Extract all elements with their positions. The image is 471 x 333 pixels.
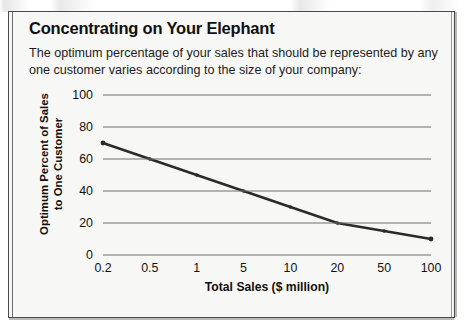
- page-title: Concentrating on Your Elephant: [29, 19, 274, 38]
- figure-panel: Concentrating on Your Elephant The optim…: [8, 11, 455, 318]
- gridline: [103, 223, 431, 224]
- x-axis-title: Total Sales ($ million): [103, 280, 431, 294]
- y-axis-tick-label: 0: [86, 248, 93, 262]
- plot-area: [103, 95, 431, 255]
- line-chart: Optimum Percent of Sales to One Customer…: [23, 95, 443, 311]
- gridline: [103, 159, 431, 160]
- x-axis-tick-label: 0.2: [94, 261, 111, 275]
- y-axis-tick-label: 40: [79, 184, 93, 198]
- gridline: [103, 191, 431, 192]
- x-axis-tick-label: 20: [330, 261, 344, 275]
- x-axis-tick-label: 50: [377, 261, 391, 275]
- data-point-marker: [101, 141, 106, 146]
- data-point-marker: [195, 173, 199, 177]
- x-axis-tick-label: 10: [284, 261, 298, 275]
- series-line: [103, 95, 431, 255]
- data-point-marker: [382, 229, 386, 233]
- x-axis-tick-label: 0.5: [141, 261, 158, 275]
- gridline: [103, 127, 431, 128]
- data-point-marker: [289, 205, 293, 209]
- y-axis-tick-labels: 100806040200: [57, 95, 93, 255]
- data-point-marker: [429, 237, 434, 242]
- y-axis-tick-label: 100: [72, 88, 93, 102]
- gridline: [103, 95, 431, 96]
- x-axis-tick-label: 100: [421, 261, 442, 275]
- y-axis-tick-label: 80: [79, 120, 93, 134]
- x-axis-tick-label: 1: [193, 261, 200, 275]
- y-axis-tick-label: 60: [79, 152, 93, 166]
- x-axis-tick-labels: 0.20.515102050100: [103, 261, 431, 279]
- x-axis-tick-label: 5: [240, 261, 247, 275]
- gridline: [103, 255, 431, 256]
- intro-paragraph: The optimum percentage of your sales tha…: [29, 45, 444, 79]
- y-axis-tick-label: 20: [79, 216, 93, 230]
